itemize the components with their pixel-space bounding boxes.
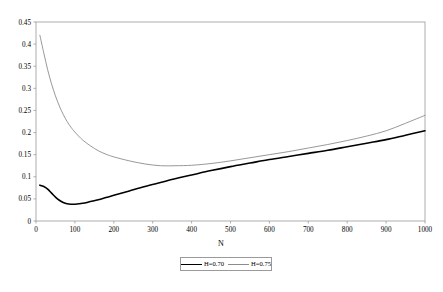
legend-item-h070: H=0.70: [181, 261, 224, 268]
chart-root: 00.050.10.150.20.250.30.350.40.45 010020…: [0, 0, 443, 292]
legend-item-h075: H=0.75: [228, 261, 271, 268]
legend-label-h075: H=0.75: [251, 261, 271, 268]
x-tick-label: 600: [264, 226, 275, 234]
y-tick-label: 0.25: [18, 107, 31, 115]
x-tick-label: 200: [108, 226, 119, 234]
series-line-h070: [40, 131, 425, 204]
y-tick-label: 0.15: [18, 151, 31, 159]
x-axis-tick-labels: 01002003004005006007008009001000: [34, 226, 432, 234]
data-series-group: [40, 35, 425, 204]
series-line-h075: [40, 35, 425, 166]
x-tick-label: 900: [381, 226, 392, 234]
y-tick-label: 0.4: [22, 41, 31, 49]
plot-frame: [36, 22, 425, 221]
x-tick-label: 100: [70, 226, 81, 234]
x-tick-label: 1000: [418, 226, 433, 234]
chart-legend: H=0.70 H=0.75: [180, 257, 272, 271]
y-tick-label: 0.2: [22, 129, 31, 137]
y-tick-label: 0.05: [18, 195, 31, 203]
legend-line-swatch-h075: [228, 264, 249, 265]
legend-label-h070: H=0.70: [204, 261, 224, 268]
x-tick-label: 800: [342, 226, 353, 234]
y-tick-label: 0: [27, 218, 31, 226]
x-axis-title: N: [218, 239, 224, 248]
x-tick-label: 0: [34, 226, 38, 234]
y-axis-tick-labels: 00.050.10.150.20.250.30.350.40.45: [18, 19, 31, 226]
legend-line-swatch-h070: [181, 264, 202, 265]
line-chart-plot: 00.050.10.150.20.250.30.350.40.45 010020…: [0, 0, 443, 292]
x-tick-label: 500: [225, 226, 236, 234]
y-tick-label: 0.3: [22, 85, 31, 93]
x-tick-label: 300: [147, 226, 158, 234]
y-tick-label: 0.45: [18, 19, 31, 27]
x-tick-label: 700: [303, 226, 314, 234]
x-tick-label: 400: [186, 226, 197, 234]
axis-ticks: [34, 22, 426, 224]
y-tick-label: 0.1: [22, 173, 31, 181]
y-tick-label: 0.35: [18, 63, 31, 71]
